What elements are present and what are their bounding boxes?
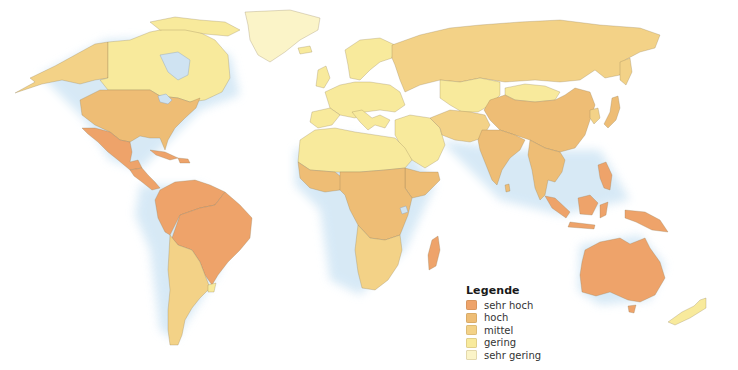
legend-label: mittel — [484, 325, 513, 336]
world-map — [0, 0, 738, 370]
swatch-sehr-hoch — [466, 300, 477, 310]
region-iceland — [298, 46, 312, 54]
legend-label: sehr gering — [484, 350, 541, 361]
region-korea — [590, 108, 600, 124]
swatch-mittel — [466, 325, 477, 335]
region-sri-lanka — [505, 184, 510, 192]
legend-item-mittel: mittel — [466, 324, 596, 337]
region-java — [568, 222, 595, 229]
map-legend: Legende sehr hoch hoch mittel gering seh… — [466, 284, 596, 362]
region-scandinavia — [345, 38, 395, 80]
region-uk — [316, 66, 330, 88]
legend-label: hoch — [484, 312, 508, 323]
region-horn-of-africa — [405, 168, 440, 198]
south-america — [155, 180, 252, 345]
swatch-hoch — [466, 313, 477, 323]
region-greenland — [245, 10, 320, 62]
region-russia — [392, 20, 660, 92]
north-america — [15, 10, 320, 190]
legend-title: Legende — [466, 284, 596, 297]
europe — [298, 38, 405, 130]
legend-item-sehr-hoch: sehr hoch — [466, 299, 596, 312]
legend-item-sehr-gering: sehr gering — [466, 349, 596, 362]
region-kamchatka — [620, 58, 632, 85]
legend-item-hoch: hoch — [466, 312, 596, 325]
region-italy-balkans — [352, 110, 390, 130]
region-japan — [604, 96, 620, 128]
region-tasmania — [628, 305, 636, 313]
region-sulawesi — [600, 202, 608, 218]
legend-label: sehr hoch — [484, 300, 533, 311]
region-madagascar — [428, 236, 440, 270]
swatch-gering — [466, 338, 477, 348]
region-new-zealand — [668, 298, 706, 325]
legend-label: gering — [484, 337, 516, 348]
swatch-sehr-gering — [466, 350, 477, 360]
region-hispaniola — [178, 158, 190, 163]
legend-item-gering: gering — [466, 337, 596, 350]
region-papua-new-guinea — [625, 210, 668, 232]
